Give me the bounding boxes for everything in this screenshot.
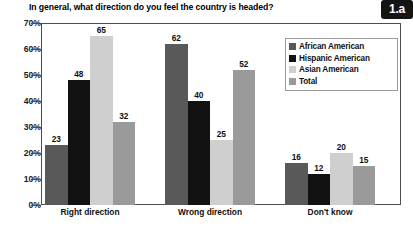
legend-swatch-asian-american: [289, 66, 296, 73]
legend-item-label: Total: [299, 77, 317, 86]
x-axis-group-label: Wrong direction: [178, 207, 242, 217]
bar-value-label: 52: [233, 59, 256, 69]
x-axis-group-label: Don't know: [308, 207, 353, 217]
bar: [113, 122, 136, 205]
bar: [165, 44, 188, 205]
legend-swatch-african-american: [289, 43, 296, 50]
y-axis-tick-mark: [31, 205, 41, 206]
y-axis-tick-mark: [31, 127, 41, 128]
legend-item-label: Asian American: [299, 65, 358, 74]
chart-header: In general, what direction do you feel t…: [0, 0, 413, 19]
legend-swatch-total: [289, 78, 296, 85]
bar: [188, 101, 211, 205]
legend-item-label: Hispanic American: [299, 54, 370, 63]
y-axis-tick-mark: [31, 23, 41, 24]
y-axis-tick-mark: [31, 75, 41, 76]
bar: [353, 166, 376, 205]
y-axis-tick-mark: [31, 153, 41, 154]
y-axis: 0%10%20%30%40%50%60%70%: [0, 0, 41, 231]
bar: [308, 174, 331, 205]
bar-value-label: 48: [68, 69, 91, 79]
y-axis-tick-mark: [31, 179, 41, 180]
legend-item: Hispanic American: [289, 53, 394, 65]
legend: African AmericanHispanic AmericanAsian A…: [285, 38, 398, 91]
bar: [90, 36, 113, 205]
legend-item: Asian American: [289, 64, 394, 76]
chart-figure: In general, what direction do you feel t…: [0, 0, 413, 231]
bar-value-label: 12: [308, 163, 331, 173]
bar: [233, 70, 256, 205]
x-axis: Right directionWrong directionDon't know: [41, 207, 401, 227]
bar: [285, 163, 308, 205]
bar: [45, 145, 68, 205]
bar-value-label: 20: [330, 142, 353, 152]
x-axis-group-label: Right direction: [60, 207, 119, 217]
bar-value-label: 32: [113, 111, 136, 121]
legend-item-label: African American: [299, 42, 364, 51]
y-axis-tick-mark: [31, 49, 41, 50]
legend-swatch-hispanic-american: [289, 55, 296, 62]
bar-value-label: 40: [188, 90, 211, 100]
legend-item: Total: [289, 76, 394, 88]
bar-value-label: 16: [285, 152, 308, 162]
bar-value-label: 23: [45, 134, 68, 144]
bar-value-label: 15: [353, 155, 376, 165]
bar-value-label: 25: [210, 129, 233, 139]
bar: [68, 80, 91, 205]
y-axis-tick-mark: [31, 101, 41, 102]
page-title: In general, what direction do you feel t…: [29, 2, 273, 12]
legend-item: African American: [289, 41, 394, 53]
bar-value-label: 62: [165, 33, 188, 43]
bar: [330, 153, 353, 205]
bar-value-label: 65: [90, 25, 113, 35]
bar: [210, 140, 233, 205]
status-badge: 1.a: [381, 0, 413, 19]
